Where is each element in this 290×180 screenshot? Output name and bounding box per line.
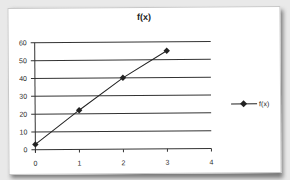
- x-tick-label: 2: [122, 159, 126, 166]
- x-tick-label: 4: [210, 159, 214, 166]
- chart-frame: f(x) 010203040506001234 f(x): [7, 6, 281, 175]
- legend-label: f(x): [259, 100, 269, 107]
- legend-line-marker-icon: [231, 99, 257, 107]
- gridline: [31, 113, 211, 114]
- data-point-diamond-icon: [164, 48, 170, 54]
- x-tick-label: 0: [34, 160, 38, 167]
- x-tick-label: 1: [78, 159, 82, 166]
- series-line: [35, 51, 168, 145]
- x-tick-label: 3: [166, 159, 170, 166]
- legend: f(x): [231, 99, 269, 107]
- y-tick-label: 30: [19, 93, 27, 100]
- gridline: [31, 42, 211, 43]
- y-tick-label: 40: [19, 75, 27, 82]
- gridline: [31, 95, 211, 96]
- gridline: [31, 59, 211, 60]
- gridline: [31, 149, 211, 150]
- y-tick-label: 0: [23, 146, 27, 153]
- plot-area: 010203040506001234: [8, 7, 280, 174]
- y-tick-label: 20: [19, 111, 27, 118]
- y-tick-label: 60: [19, 39, 27, 46]
- y-tick-label: 50: [19, 57, 27, 64]
- y-tick-label: 10: [19, 128, 27, 135]
- y-axis: [35, 43, 36, 153]
- gridline: [31, 131, 211, 132]
